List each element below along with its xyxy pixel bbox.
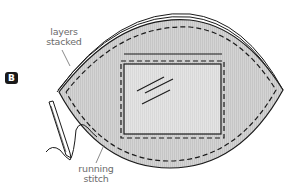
thread bbox=[46, 124, 97, 160]
step-badge: B bbox=[5, 72, 18, 84]
label-line: stitch bbox=[72, 174, 120, 184]
label-layers-stacked: layers stacked bbox=[40, 27, 88, 47]
layers-leader-line bbox=[62, 50, 70, 66]
window-pane bbox=[124, 64, 221, 134]
illustration-stage: layers stacked running stitch B bbox=[0, 0, 299, 192]
stitch-leader-line bbox=[96, 145, 104, 163]
label-running-stitch: running stitch bbox=[72, 164, 120, 184]
label-line: stacked bbox=[40, 37, 88, 47]
